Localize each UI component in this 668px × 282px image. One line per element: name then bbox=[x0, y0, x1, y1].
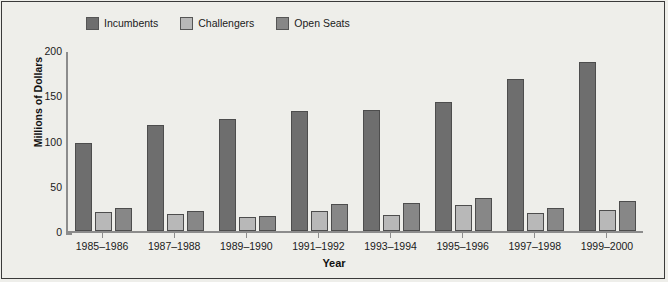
bar-open-seats bbox=[475, 198, 492, 231]
x-axis-tick-label: 1999–2000 bbox=[571, 240, 643, 252]
legend-swatch-incumbents bbox=[86, 17, 99, 30]
x-axis-tick-mark bbox=[355, 233, 427, 238]
bar-incumbents bbox=[363, 110, 380, 231]
bar-group bbox=[435, 52, 492, 231]
legend-label-challengers: Challengers bbox=[198, 18, 254, 29]
bar-challengers bbox=[455, 205, 472, 231]
x-axis-tick-mark bbox=[499, 233, 571, 238]
x-axis-tick-mark bbox=[138, 233, 210, 238]
bar-group bbox=[363, 52, 420, 231]
x-axis-tick-mark bbox=[210, 233, 282, 238]
bar-challengers bbox=[383, 215, 400, 231]
x-axis-tick-label: 1995–1996 bbox=[427, 240, 499, 252]
bar-group bbox=[75, 52, 132, 231]
bar-open-seats bbox=[403, 203, 420, 231]
bar-challengers bbox=[311, 211, 328, 231]
bar-groups bbox=[68, 52, 643, 231]
x-axis-tick-marks bbox=[66, 233, 643, 238]
x-axis-tick-mark bbox=[571, 233, 643, 238]
chart-figure: Incumbents Challengers Open Seats 050100… bbox=[0, 0, 668, 282]
bar-open-seats bbox=[115, 208, 132, 231]
bar-incumbents bbox=[147, 125, 164, 231]
bar-challengers bbox=[167, 214, 184, 231]
x-axis-tick-label: 1987–1988 bbox=[138, 240, 210, 252]
bar-group bbox=[219, 52, 276, 231]
bar-group bbox=[147, 52, 204, 231]
bar-group bbox=[579, 52, 636, 231]
x-axis-tick-mark bbox=[282, 233, 354, 238]
bar-incumbents bbox=[219, 119, 236, 231]
bar-group bbox=[291, 52, 348, 231]
bar-open-seats bbox=[331, 204, 348, 231]
bar-open-seats bbox=[259, 216, 276, 231]
bar-group bbox=[507, 52, 564, 231]
x-axis-tick-mark bbox=[427, 233, 499, 238]
x-axis-tick-label: 1991–1992 bbox=[282, 240, 354, 252]
bar-open-seats bbox=[619, 201, 636, 231]
legend-item-incumbents: Incumbents bbox=[86, 17, 158, 30]
bar-open-seats bbox=[547, 208, 564, 231]
x-axis-title: Year bbox=[0, 257, 668, 269]
x-axis-tick-mark bbox=[66, 233, 138, 238]
x-axis-tick-label: 1993–1994 bbox=[355, 240, 427, 252]
x-axis-tick-label: 1997–1998 bbox=[499, 240, 571, 252]
legend-label-open-seats: Open Seats bbox=[294, 18, 349, 29]
legend-swatch-challengers bbox=[180, 17, 193, 30]
legend-item-challengers: Challengers bbox=[180, 17, 254, 30]
y-axis-title: Millions of Dollars bbox=[32, 42, 44, 162]
bar-challengers bbox=[527, 213, 544, 231]
x-axis-tick-labels: 1985–19861987–19881989–19901991–19921993… bbox=[66, 240, 643, 252]
bar-challengers bbox=[599, 210, 616, 231]
plot-area bbox=[66, 52, 643, 233]
bar-incumbents bbox=[507, 79, 524, 231]
legend-label-incumbents: Incumbents bbox=[104, 18, 158, 29]
bar-challengers bbox=[95, 212, 112, 231]
bar-challengers bbox=[239, 217, 256, 231]
bar-open-seats bbox=[187, 211, 204, 231]
bar-incumbents bbox=[579, 62, 596, 231]
x-axis-tick-label: 1989–1990 bbox=[210, 240, 282, 252]
x-axis-tick-label: 1985–1986 bbox=[66, 240, 138, 252]
bar-incumbents bbox=[435, 102, 452, 231]
chart-legend: Incumbents Challengers Open Seats bbox=[86, 15, 372, 31]
bar-incumbents bbox=[291, 111, 308, 231]
legend-item-open-seats: Open Seats bbox=[276, 17, 349, 30]
legend-swatch-open-seats bbox=[276, 17, 289, 30]
bar-incumbents bbox=[75, 143, 92, 231]
